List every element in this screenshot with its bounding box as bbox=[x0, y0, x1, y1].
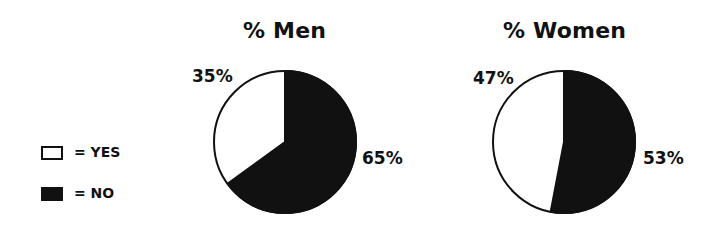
pct-label-men-no: 65% bbox=[362, 148, 403, 168]
pct-label-women-yes: 47% bbox=[473, 68, 514, 88]
pie-slice-no bbox=[551, 71, 635, 213]
pie-men bbox=[214, 71, 356, 213]
chart-title-women: % Women bbox=[503, 18, 626, 43]
pct-label-men-yes: 35% bbox=[192, 66, 233, 86]
pct-label-women-no: 53% bbox=[643, 148, 684, 168]
chart-title-men: % Men bbox=[243, 18, 326, 43]
pie-women bbox=[493, 71, 635, 213]
